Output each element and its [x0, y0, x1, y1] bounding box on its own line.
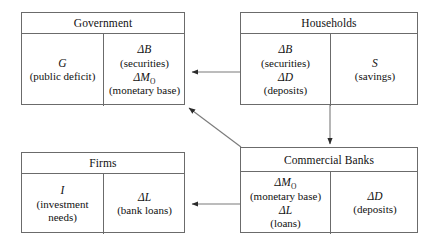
entry-gloss: (deposits) [264, 84, 307, 97]
entry-term: G [58, 57, 66, 71]
entry-gloss: (securities) [261, 57, 310, 70]
arrow-commercial-banks-to-government [189, 108, 241, 147]
box-commercial-banks-header: Commercial Banks [241, 148, 417, 172]
entry-gloss: (deposits) [353, 203, 396, 216]
entry-term: ΔD [367, 190, 382, 204]
entry-term: S [372, 57, 378, 71]
box-commercial-banks: Commercial Banks ΔMO (monetary base) ΔL … [240, 147, 418, 233]
cell-firms-left: I (investment needs) [22, 174, 104, 234]
entry-monetary-base: ΔMO (monetary base) [250, 176, 321, 203]
entry-term-main: ΔM [275, 176, 291, 188]
entry-term: ΔL [279, 204, 292, 218]
box-government: Government G (public deficit) ΔB (securi… [21, 12, 185, 105]
diagram-canvas: Government G (public deficit) ΔB (securi… [0, 0, 439, 246]
box-government-header: Government [22, 13, 184, 34]
cell-firms-right: ΔL (bank loans) [104, 174, 185, 234]
entry-loans: ΔL (loans) [270, 204, 301, 231]
entry-term: ΔL [138, 191, 151, 205]
entry-term-main: ΔM [134, 71, 150, 83]
entry-term: ΔMO [275, 176, 297, 190]
entry-securities: ΔB (securities) [261, 43, 310, 70]
box-government-body: G (public deficit) ΔB (securities) ΔMO (… [22, 34, 184, 106]
entry-public-deficit: G (public deficit) [30, 57, 96, 84]
entry-gloss: (loans) [270, 217, 301, 230]
entry-term: ΔD [278, 71, 293, 85]
entry-term: I [61, 184, 65, 198]
cell-commercial-banks-right: ΔD (deposits) [331, 172, 419, 234]
box-firms-header: Firms [22, 153, 184, 174]
entry-investment-needs: I (investment needs) [26, 184, 100, 224]
entry-deposits: ΔD (deposits) [353, 190, 396, 217]
entry-term: ΔMO [134, 71, 156, 85]
entry-term: ΔB [279, 43, 293, 57]
entry-securities: ΔB (securities) [120, 43, 169, 70]
entry-term: ΔB [138, 43, 152, 57]
entry-gloss: (bank loans) [117, 204, 172, 217]
entry-gloss: (public deficit) [30, 70, 96, 83]
entry-gloss: (savings) [355, 70, 395, 83]
box-households-header: Households [241, 13, 417, 34]
entry-bank-loans: ΔL (bank loans) [117, 191, 172, 218]
cell-gov-right: ΔB (securities) ΔMO (monetary base) [104, 34, 185, 106]
box-firms: Firms I (investment needs) ΔL (bank loan… [21, 152, 185, 233]
cell-gov-left: G (public deficit) [22, 34, 104, 106]
box-households: Households ΔB (securities) ΔD (deposits)… [240, 12, 418, 105]
entry-monetary-base: ΔMO (monetary base) [109, 71, 180, 98]
box-commercial-banks-body: ΔMO (monetary base) ΔL (loans) ΔD (depos… [241, 172, 417, 234]
cell-households-right: S (savings) [331, 34, 419, 106]
box-firms-body: I (investment needs) ΔL (bank loans) [22, 174, 184, 234]
cell-commercial-banks-left: ΔMO (monetary base) ΔL (loans) [241, 172, 331, 234]
entry-savings: S (savings) [355, 57, 395, 84]
box-households-body: ΔB (securities) ΔD (deposits) S (savings… [241, 34, 417, 106]
cell-households-left: ΔB (securities) ΔD (deposits) [241, 34, 331, 106]
entry-gloss: (investment needs) [26, 198, 100, 224]
entry-deposits: ΔD (deposits) [264, 71, 307, 98]
entry-gloss: (monetary base) [109, 84, 180, 97]
entry-gloss: (monetary base) [250, 190, 321, 203]
entry-gloss: (securities) [120, 57, 169, 70]
